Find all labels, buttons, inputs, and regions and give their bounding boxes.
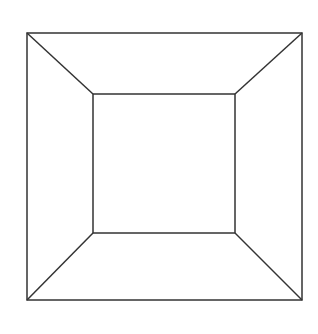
inner-square — [93, 94, 235, 233]
outer-square — [27, 33, 302, 300]
connector-bottom-right — [235, 233, 302, 300]
connector-top-left — [27, 33, 93, 94]
frustum-diagram — [0, 0, 318, 334]
connector-bottom-left — [27, 233, 93, 300]
connector-top-right — [235, 33, 302, 94]
corner-connectors — [27, 33, 302, 300]
diagram-canvas — [0, 0, 318, 334]
